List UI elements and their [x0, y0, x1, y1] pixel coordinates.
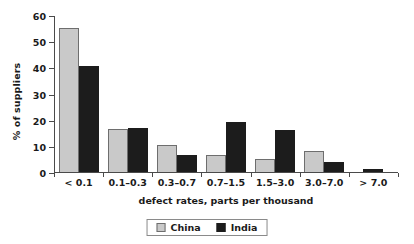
bar-group — [54, 16, 103, 172]
bar-china — [206, 155, 226, 172]
bar-group — [300, 16, 349, 172]
legend-label-china: China — [171, 222, 201, 233]
legend-item-china: China — [157, 222, 201, 233]
x-tick-label: < 0.1 — [54, 177, 103, 188]
x-axis-tick-labels: < 0.10.1–0.30.3–0.70.7–1.51.5–3.03.0–7.0… — [54, 177, 398, 188]
y-axis-title: % of suppliers — [11, 42, 22, 162]
bar-china — [255, 159, 275, 172]
plot-area: 0102030405060 — [54, 16, 398, 173]
x-axis-line — [54, 172, 398, 173]
x-tick-label: 0.7–1.5 — [201, 177, 250, 188]
bar-india — [128, 128, 148, 172]
x-tick-label: 0.3–0.7 — [152, 177, 201, 188]
y-tick-label: 30 — [33, 89, 46, 100]
bar-groups — [54, 16, 398, 172]
bar-india — [79, 66, 99, 172]
y-tick-label: 10 — [33, 141, 46, 152]
bar-group — [251, 16, 300, 172]
bar-india — [275, 130, 295, 172]
y-tick-label: 60 — [33, 11, 46, 22]
x-axis-title: defect rates, parts per thousand — [54, 195, 398, 206]
y-tick-label: 50 — [33, 37, 46, 48]
bar-india — [363, 169, 383, 172]
bar-india — [324, 162, 344, 172]
legend-swatch-india — [217, 223, 226, 232]
bar-group — [201, 16, 250, 172]
bar-group — [152, 16, 201, 172]
bar-china — [59, 28, 79, 172]
x-tick-label: 1.5–3.0 — [251, 177, 300, 188]
x-tick-label: 3.0–7.0 — [300, 177, 349, 188]
legend-swatch-china — [157, 223, 166, 232]
legend-label-india: India — [231, 222, 258, 233]
legend: China India — [147, 219, 268, 236]
x-tick-label: 0.1–0.3 — [103, 177, 152, 188]
bar-china — [108, 129, 128, 172]
y-tick-label: 0 — [39, 168, 46, 179]
legend-item-india: India — [217, 222, 258, 233]
bar-china — [304, 151, 324, 172]
bar-chart: % of suppliers 0102030405060 < 0.10.1–0.… — [0, 0, 414, 244]
y-tick-label: 40 — [33, 63, 46, 74]
bar-group — [103, 16, 152, 172]
x-tick — [398, 173, 399, 177]
bar-india — [177, 155, 197, 172]
bar-group — [349, 16, 398, 172]
bar-china — [157, 145, 177, 172]
bar-india — [226, 122, 246, 172]
x-tick-label: > 7.0 — [349, 177, 398, 188]
y-tick-label: 20 — [33, 115, 46, 126]
